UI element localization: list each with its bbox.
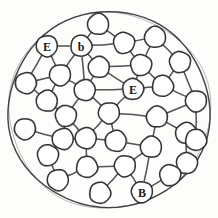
- graph-node[interactable]: [37, 144, 58, 166]
- graph-node-labeled[interactable]: E: [36, 36, 57, 57]
- node-label-e: E: [129, 83, 137, 97]
- graph-node[interactable]: [88, 56, 110, 78]
- diagram-canvas: EbEB: [0, 0, 218, 218]
- graph-edge: [51, 55, 56, 66]
- graph-node[interactable]: [152, 75, 174, 97]
- graph-node[interactable]: [55, 105, 77, 127]
- graph-edge: [91, 44, 114, 46]
- graph-node[interactable]: [185, 90, 206, 112]
- node-label-b: B: [138, 186, 146, 200]
- graph-edge: [31, 54, 43, 74]
- graph-node[interactable]: [87, 13, 109, 35]
- graph-node[interactable]: [49, 64, 70, 86]
- graph-node[interactable]: [114, 155, 136, 177]
- graph-edge: [35, 132, 54, 137]
- graph-edge: [92, 97, 102, 106]
- graph-edge: [66, 54, 76, 67]
- graph-edge: [72, 98, 79, 108]
- graph-edge: [119, 114, 148, 116]
- graph-node[interactable]: [76, 156, 98, 178]
- graph-node[interactable]: [144, 26, 166, 48]
- graph-node[interactable]: [146, 106, 168, 128]
- graph-edge: [36, 77, 51, 81]
- graph-edge: [107, 72, 125, 83]
- graph-edge: [166, 122, 178, 129]
- graph-node[interactable]: [36, 90, 58, 111]
- graph-node[interactable]: [105, 130, 127, 151]
- graph-node[interactable]: [15, 72, 37, 94]
- graph-node-labeled[interactable]: b: [70, 35, 92, 57]
- graph-node-labeled[interactable]: E: [122, 78, 144, 100]
- graph-edge: [134, 39, 146, 41]
- graph-node[interactable]: [14, 118, 36, 140]
- graph-edge: [162, 44, 173, 55]
- graph-node[interactable]: [52, 128, 73, 150]
- node-label-b: b: [78, 40, 85, 54]
- graph-edge: [97, 166, 115, 167]
- node-label-e: E: [43, 40, 51, 54]
- graph-node[interactable]: [113, 32, 135, 54]
- graph-node[interactable]: [89, 182, 111, 204]
- graph-node[interactable]: [75, 127, 97, 149]
- graph-node[interactable]: [47, 169, 68, 191]
- graph-edge: [184, 71, 193, 92]
- graph-edge: [144, 157, 149, 183]
- graph-edge: [126, 143, 142, 146]
- graph-edge: [145, 46, 150, 57]
- graph-node-labeled[interactable]: B: [131, 181, 153, 203]
- graph-edge: [95, 89, 123, 90]
- graph-node[interactable]: [74, 79, 95, 101]
- graph-diagram: EbEB: [0, 0, 218, 218]
- graph-node[interactable]: [169, 51, 191, 73]
- graph-edge: [82, 56, 85, 80]
- graph-edge: [133, 153, 143, 160]
- graph-edge: [150, 180, 161, 187]
- graph-edge: [166, 105, 187, 114]
- graph-node[interactable]: [159, 164, 181, 186]
- graph-node[interactable]: [130, 54, 152, 76]
- graph-edge: [172, 90, 187, 97]
- graph-edge: [107, 173, 119, 186]
- graph-edge: [109, 65, 131, 66]
- graph-node[interactable]: [185, 129, 207, 151]
- graph-edge: [116, 96, 126, 106]
- graph-edge: [93, 120, 103, 131]
- graph-node[interactable]: [140, 136, 161, 158]
